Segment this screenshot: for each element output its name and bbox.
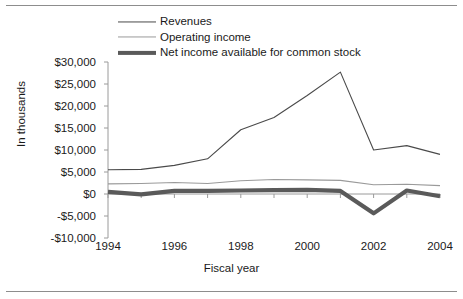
x-axis-title: Fiscal year (0, 262, 463, 274)
series-line-1 (108, 179, 440, 185)
legend-swatch-net-income (118, 48, 156, 58)
y-tick-label: -$5,000 (10, 210, 96, 222)
y-tick-label: $5,000 (10, 166, 96, 178)
legend-swatch-revenues (118, 17, 156, 27)
series-layer (108, 72, 440, 213)
x-tick-label: 2000 (294, 240, 320, 252)
x-tick-label: 2002 (361, 240, 387, 252)
y-tick-label: $0 (10, 188, 96, 200)
axes-layer (104, 62, 440, 238)
y-axis-title: In thousands (15, 66, 27, 162)
legend-item-operating-income: Operating income (118, 30, 361, 46)
legend-label-operating-income: Operating income (160, 30, 251, 46)
x-tick-label: 1996 (162, 240, 188, 252)
legend-swatch-operating-income (118, 32, 156, 42)
x-tick-label: 1998 (228, 240, 254, 252)
x-tick-label: 1994 (95, 240, 121, 252)
series-line-0 (108, 72, 440, 170)
figure-container: -$10,000-$5,000$0$5,000$10,000$15,000$20… (0, 0, 463, 299)
x-tick-label: 2004 (427, 240, 453, 252)
legend-label-net-income: Net income available for common stock (160, 45, 361, 61)
y-tick-label: -$10,000 (10, 232, 96, 244)
legend-label-revenues: Revenues (160, 14, 212, 30)
chart-legend: Revenues Operating income Net income ava… (118, 14, 361, 61)
series-line-2 (108, 190, 440, 214)
legend-item-net-income: Net income available for common stock (118, 45, 361, 61)
legend-item-revenues: Revenues (118, 14, 361, 30)
